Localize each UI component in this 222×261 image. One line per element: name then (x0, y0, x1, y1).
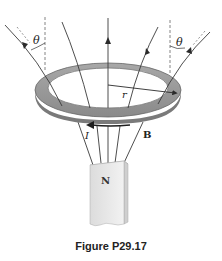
magnet-side-face (124, 161, 128, 224)
field-label: B (143, 129, 151, 140)
current-direction-arrow (92, 125, 130, 126)
arrow-up-icon (22, 42, 28, 49)
ring-magnet-diagram: θ θ r I B N (0, 0, 222, 261)
theta-label-right: θ (176, 36, 183, 49)
field-lines-lower (78, 122, 143, 165)
arrow-up-icon (105, 37, 111, 44)
theta-label-left: θ (33, 34, 40, 47)
magnet-north-label: N (101, 175, 110, 186)
current-label: I (84, 130, 90, 141)
magnet-front-face (90, 161, 124, 226)
field-direction-arrows (22, 37, 192, 55)
bar-magnet (90, 161, 128, 226)
figure-caption: Figure P29.17 (0, 240, 222, 252)
arrow-up-icon (186, 47, 192, 54)
